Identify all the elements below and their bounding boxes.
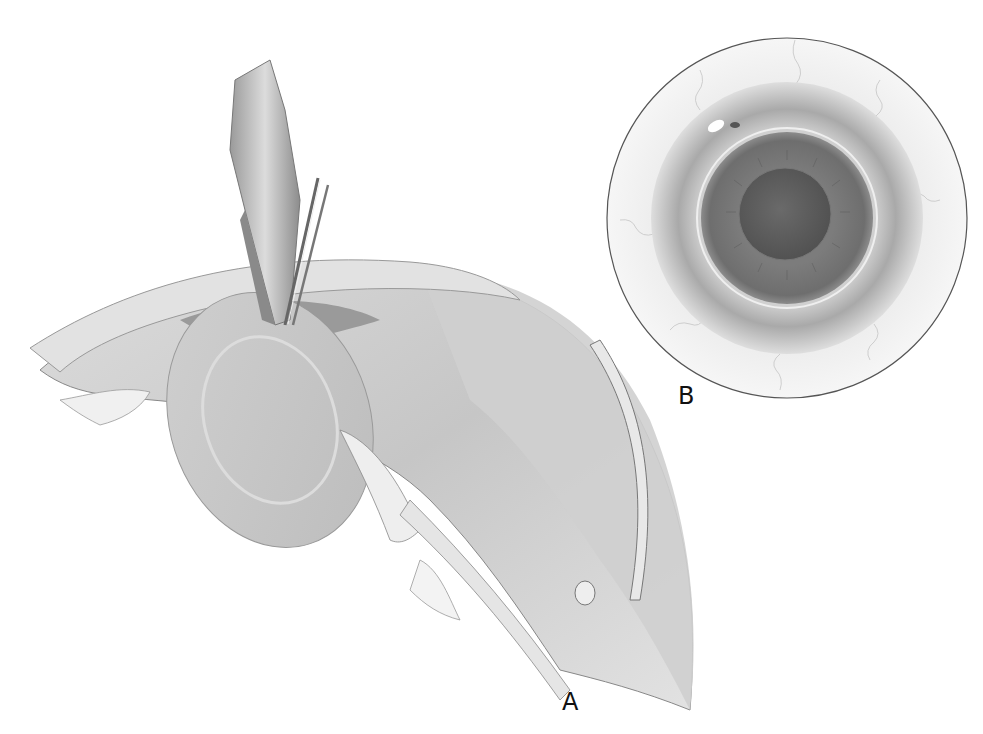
eye-surgery-illustration	[0, 0, 983, 734]
panel-label-a: A	[562, 690, 578, 714]
panel-b-eye-front-view	[607, 38, 967, 398]
panel-a-eye-cross-section	[30, 260, 694, 710]
panel-label-b: B	[678, 384, 694, 408]
